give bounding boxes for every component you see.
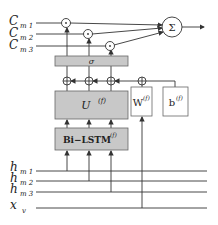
multiply-node-3 (106, 42, 115, 51)
u-weight-box: U (f) (55, 91, 128, 119)
multiply-node-1 (62, 19, 71, 28)
add-node-2 (85, 77, 93, 85)
add-node-1 (63, 77, 71, 85)
svg-text:(f): (f) (98, 97, 106, 105)
svg-text:Bi−LSTM: Bi−LSTM (63, 135, 111, 145)
svg-text:m 2: m 2 (20, 34, 34, 42)
svg-text:σ: σ (89, 57, 95, 66)
svg-text:(f): (f) (143, 94, 151, 102)
svg-text:b: b (169, 97, 175, 108)
svg-text:Σ: Σ (168, 22, 175, 33)
attention-diagram: C m 1 C m 2 C m 3 (0, 0, 218, 225)
multiply-node-2 (84, 30, 93, 39)
svg-text:h: h (10, 182, 18, 196)
sigma-activation-bar: σ (55, 56, 128, 66)
w-weight-box: W (f) (131, 87, 152, 116)
svg-text:(f): (f) (176, 94, 184, 102)
svg-text:m 1: m 1 (20, 168, 33, 176)
svg-text:C: C (9, 38, 18, 52)
svg-text:v: v (22, 207, 26, 215)
svg-text:x: x (10, 198, 17, 212)
b-bias-box: b (f) (163, 87, 188, 116)
svg-text:m 3: m 3 (20, 190, 34, 198)
x-v-label: x v (10, 198, 26, 215)
add-node-4 (138, 77, 146, 85)
svg-text:m 3: m 3 (20, 46, 34, 54)
svg-text:(f): (f) (110, 131, 118, 139)
svg-text:m 1: m 1 (20, 22, 33, 30)
add-node-3 (107, 77, 115, 85)
sum-node: Σ (162, 17, 182, 37)
bi-lstm-box: Bi−LSTM (f) (55, 128, 128, 150)
svg-text:m 2: m 2 (20, 179, 34, 187)
svg-text:U: U (81, 99, 91, 112)
